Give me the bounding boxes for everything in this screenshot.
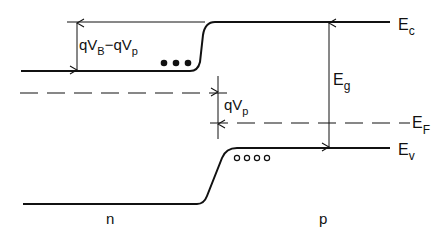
n-region-label: n [106,210,114,227]
electron [185,60,192,67]
p-region-label: p [319,210,327,227]
ef-label: EF [412,114,430,137]
conduction-band [21,22,390,71]
barrier-label: qVB−qVp [79,36,138,57]
qvp-label: qVp [224,96,248,117]
hole [254,155,259,160]
eg-label: Eg [333,71,350,93]
hole [234,155,239,160]
electron [161,60,168,67]
band-diagram: Ec Eg EF Ev qVB−qVp qVp n p [0,0,446,242]
hole [244,155,249,160]
ec-label: Ec [398,16,415,38]
hole [264,155,269,160]
valence-band [23,148,390,204]
ev-label: Ev [398,141,415,163]
electron [173,60,180,67]
